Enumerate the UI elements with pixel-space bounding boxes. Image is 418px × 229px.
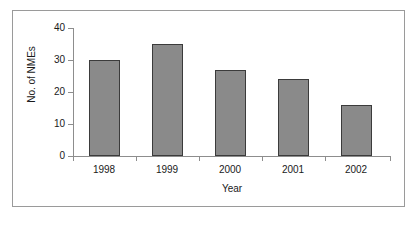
y-tick-0: 0	[13, 151, 65, 161]
bar-2001[interactable]	[278, 79, 309, 156]
y-axis-line	[73, 28, 74, 157]
y-tick-label-30: 30	[17, 55, 65, 65]
y-tick-30: 30	[13, 55, 65, 65]
chart-frame: No. of NMEs 40 30 20 10 0	[12, 10, 405, 207]
bar-2000[interactable]	[215, 70, 246, 156]
bar-2002[interactable]	[341, 105, 372, 156]
x-tick-label-1998: 1998	[74, 164, 134, 176]
x-tick-mark-0	[73, 157, 74, 161]
bar-1999[interactable]	[152, 44, 183, 156]
x-tick-label-2000: 2000	[200, 164, 260, 176]
x-tick-label-2001: 2001	[263, 164, 323, 176]
y-axis-title: No. of NMEs	[26, 30, 37, 120]
x-tick-label-2002: 2002	[326, 164, 386, 176]
x-tick-mark-4	[325, 157, 326, 161]
y-tick-40: 40	[13, 23, 65, 33]
x-tick-mark-5	[390, 157, 391, 161]
plot-area: No. of NMEs 40 30 20 10 0	[13, 11, 406, 208]
x-tick-label-1999: 1999	[137, 164, 197, 176]
x-axis-title: Year	[73, 183, 391, 195]
x-tick-mark-3	[262, 157, 263, 161]
y-tick-10: 10	[13, 119, 65, 129]
x-tick-mark-1	[136, 157, 137, 161]
bar-1998[interactable]	[89, 60, 120, 156]
y-tick-label-20: 20	[17, 87, 65, 97]
y-tick-label-40: 40	[17, 23, 65, 33]
x-axis-line	[73, 156, 391, 157]
y-tick-label-0: 0	[17, 151, 65, 161]
y-tick-label-10: 10	[17, 119, 65, 129]
x-tick-mark-2	[199, 157, 200, 161]
y-tick-20: 20	[13, 87, 65, 97]
figure-canvas: No. of NMEs 40 30 20 10 0	[0, 0, 418, 229]
